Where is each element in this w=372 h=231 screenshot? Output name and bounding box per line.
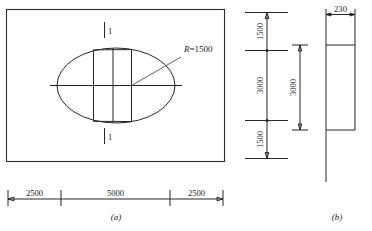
horizontal-dim-label-2: 2500 <box>188 188 205 198</box>
drawing-canvas: R=1500 1 1 2500 5000 2500 (a) <box>0 0 372 231</box>
section-body-outline <box>326 45 355 130</box>
vertical-dim-node-1 <box>266 49 269 52</box>
radius-value-text: 1500 <box>195 44 214 54</box>
horizontal-dim-label-1: 5000 <box>107 188 124 198</box>
caption-section: (b) <box>332 212 343 222</box>
horizontal-dimension-group: 2500 5000 2500 <box>8 188 223 206</box>
vertical-dim-label-0: 1500 <box>255 23 265 40</box>
radius-label: R=1500 <box>183 44 213 54</box>
section-marker-bottom-label: 1 <box>108 132 112 142</box>
plan-view-group <box>7 10 225 162</box>
engineering-drawing-figure: R=1500 1 1 2500 5000 2500 (a) <box>0 0 372 231</box>
vertical-dim-label-1: 3000 <box>255 77 265 94</box>
vertical-dim-label-2: 1500 <box>255 131 265 148</box>
vertical-dimension-group: 1500 3000 1500 <box>245 13 288 159</box>
radius-leader-line <box>132 57 182 86</box>
section-marker-top-label: 1 <box>108 26 112 36</box>
section-height-label: 3000 <box>288 79 298 96</box>
caption-plan: (a) <box>111 212 122 222</box>
section-width-label: 230 <box>334 4 347 14</box>
vertical-dim-node-2 <box>266 119 269 122</box>
section-view-group: 230 3000 <box>288 4 355 182</box>
horizontal-dim-label-0: 2500 <box>26 188 43 198</box>
